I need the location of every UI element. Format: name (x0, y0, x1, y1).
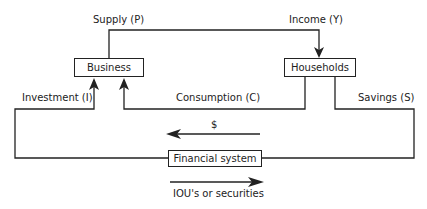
supply-label: Supply (P) (93, 14, 144, 25)
money-arrow (166, 129, 260, 139)
households-label: Households (291, 62, 349, 73)
financial-system-node: Financial system (168, 150, 262, 167)
savings-label: Savings (S) (358, 92, 414, 103)
securities-arrow (170, 177, 264, 187)
households-node: Households (284, 58, 356, 77)
investment-label: Investment (I) (22, 92, 93, 103)
consumption-label: Consumption (C) (176, 92, 260, 103)
investment-line (15, 78, 168, 158)
securities-label: IOU's or securities (173, 188, 264, 199)
business-node: Business (74, 58, 144, 77)
savings-line (261, 77, 414, 158)
money-label: $ (211, 119, 217, 130)
supply-income-line (109, 30, 324, 58)
flow-lines (0, 0, 427, 209)
business-label: Business (87, 62, 131, 73)
financial-system-label: Financial system (173, 153, 256, 164)
income-label: Income (Y) (289, 14, 343, 25)
